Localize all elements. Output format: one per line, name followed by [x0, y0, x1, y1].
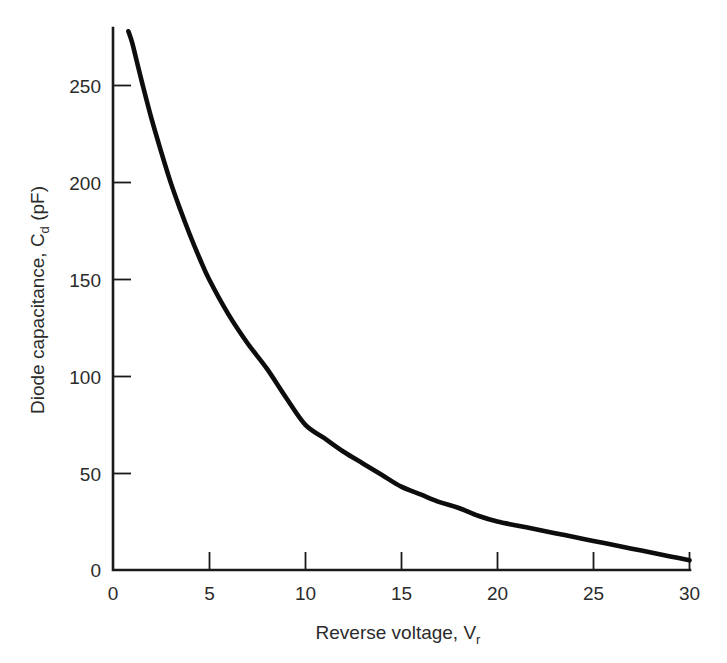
x-tick-label-25: 25 — [583, 583, 604, 604]
diode-capacitance-chart: 0 50 100 150 200 250 0 5 10 15 20 25 30 … — [0, 0, 727, 663]
x-axis-title-main: Reverse voltage, V — [316, 622, 477, 643]
y-tick-label-250: 250 — [69, 76, 101, 97]
y-tick-label-150: 150 — [69, 270, 101, 291]
y-tick-label-100: 100 — [69, 367, 101, 388]
y-axis-title-subscript: d — [37, 226, 52, 233]
x-tick-label-5: 5 — [204, 583, 215, 604]
y-tick-label-200: 200 — [69, 173, 101, 194]
y-tick-label-0: 0 — [90, 560, 101, 581]
x-tick-label-0: 0 — [108, 583, 119, 604]
y-axis-title-part1: Diode capacitance, C — [27, 233, 48, 414]
x-tick-label-30: 30 — [679, 583, 700, 604]
y-tick-label-50: 50 — [80, 464, 101, 485]
x-axis-title-subscript: r — [476, 632, 481, 647]
chart-figure: 0 50 100 150 200 250 0 5 10 15 20 25 30 … — [0, 0, 727, 663]
y-axis-title-part2: (pF) — [27, 186, 48, 226]
x-tick-label-10: 10 — [295, 583, 316, 604]
chart-background — [0, 0, 727, 663]
x-tick-label-15: 15 — [391, 583, 412, 604]
x-tick-label-20: 20 — [487, 583, 508, 604]
